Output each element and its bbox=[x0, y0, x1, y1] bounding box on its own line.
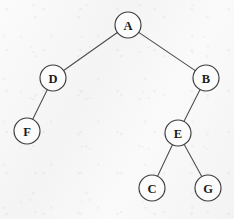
node-label-a: A bbox=[123, 19, 132, 33]
node-label-c: C bbox=[147, 182, 156, 196]
node-label-f: F bbox=[23, 125, 31, 139]
tree-nodes-group: ADBFECG bbox=[14, 12, 221, 201]
tree-edge-e-g bbox=[184, 144, 202, 176]
tree-node-g[interactable]: G bbox=[195, 175, 221, 201]
tree-edge-e-c bbox=[158, 145, 173, 177]
tree-canvas: ADBFECG bbox=[0, 0, 234, 219]
binary-tree-figure: ADBFECG bbox=[0, 0, 234, 219]
node-label-b: B bbox=[202, 72, 210, 86]
tree-edges-group bbox=[33, 32, 202, 176]
tree-edge-a-b bbox=[139, 32, 196, 70]
tree-node-f[interactable]: F bbox=[14, 118, 40, 144]
node-label-g: G bbox=[203, 182, 213, 196]
tree-node-d[interactable]: D bbox=[40, 65, 66, 91]
tree-node-b[interactable]: B bbox=[193, 65, 219, 91]
tree-node-c[interactable]: C bbox=[139, 175, 165, 201]
tree-node-a[interactable]: A bbox=[115, 12, 141, 38]
tree-edge-d-f bbox=[33, 90, 48, 120]
node-label-d: D bbox=[48, 72, 57, 86]
tree-edge-b-e bbox=[184, 90, 200, 122]
tree-edge-a-d bbox=[64, 33, 118, 71]
node-label-e: E bbox=[174, 127, 182, 141]
tree-node-e[interactable]: E bbox=[165, 120, 191, 146]
